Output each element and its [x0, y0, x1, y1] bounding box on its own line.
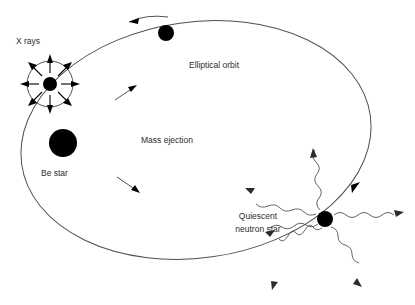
- label-quiescent-neutron-star-line1: Quiescent: [239, 211, 278, 221]
- quiescent-wave-upper-left-head: [245, 188, 255, 194]
- label-mass-ejection: Mass ejection: [141, 135, 193, 145]
- label-be-star: Be star: [41, 168, 68, 178]
- quiescent-wave-lower-right-path: [331, 227, 359, 263]
- quiescent-wave-down: [271, 225, 322, 290]
- label-elliptical-orbit: Elliptical orbit: [189, 60, 240, 70]
- quiescent-wave-lower-right-head: [353, 278, 362, 287]
- quiescent-neutron-star-dot: [317, 211, 333, 227]
- x-ray-arrowhead-nw: [28, 62, 37, 70]
- label-x-rays: X rays: [16, 36, 40, 46]
- orbit-direction-arrow-right: [351, 182, 360, 193]
- quiescent-wave-right: [334, 210, 404, 218]
- quiescent-wave-lower-right: [331, 227, 362, 287]
- mass-ejection-arrows: [115, 85, 140, 193]
- x-ray-arrowhead-s: [47, 105, 53, 114]
- x-ray-arrowhead-n: [47, 54, 53, 63]
- quiescent-wave-up: [310, 148, 321, 210]
- x-ray-arrowhead-ne: [63, 62, 72, 70]
- accreting-neutron-star-dot: [43, 77, 57, 91]
- quiescent-wave-up-path: [313, 150, 322, 210]
- quiescent-wave-up-head: [310, 148, 317, 158]
- be-star-dot: [49, 129, 77, 157]
- x-ray-arrowhead-se: [63, 98, 72, 106]
- x-ray-arrowhead-e: [71, 81, 80, 87]
- quiescent-wave-right-head: [394, 210, 404, 217]
- quiescent-wave-right-path: [334, 213, 394, 218]
- x-ray-arrowhead-w: [20, 81, 29, 87]
- ejection-arrow-lower-head: [131, 185, 140, 193]
- quiescent-wave-down-head: [271, 281, 278, 290]
- diagram-root: X rays Be star Elliptical orbit Mass eje…: [0, 0, 415, 305]
- x-ray-source-group: [20, 54, 80, 114]
- orbit-direction-arrow-top: [129, 16, 168, 24]
- label-quiescent-neutron-star-line2: neutron star: [235, 224, 281, 234]
- orbit-arrow-right-head: [351, 182, 360, 193]
- binary-system-diagram: X rays Be star Elliptical orbit Mass eje…: [0, 0, 415, 305]
- orbiting-neutron-star-dot: [158, 25, 174, 41]
